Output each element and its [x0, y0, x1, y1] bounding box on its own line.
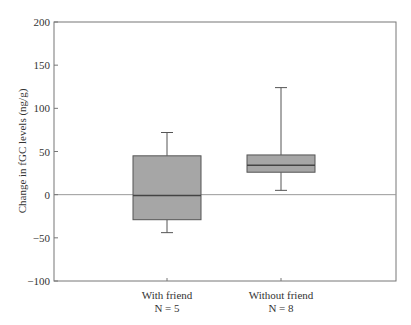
iqr-box: [247, 155, 315, 172]
category-label: With friend: [142, 289, 193, 301]
y-axis-title: Change in fGC levels (ng/g): [16, 88, 29, 213]
y-tick-label: 200: [34, 16, 51, 28]
box-1: [133, 133, 201, 233]
y-tick-label: 150: [34, 59, 51, 71]
y-tick-label: 0: [45, 189, 51, 201]
box-plot: 200150100500−50−100 With friendN = 5With…: [0, 0, 411, 325]
y-tick-label: −100: [27, 275, 50, 287]
y-tick-label: 50: [39, 146, 51, 158]
box-2: [247, 88, 315, 191]
plot-frame: [54, 22, 396, 281]
y-tick-label: 100: [34, 102, 51, 114]
iqr-box: [133, 156, 201, 220]
sample-size-label: N = 5: [154, 302, 180, 314]
category-label: Without friend: [249, 289, 314, 301]
y-tick-label: −50: [33, 232, 51, 244]
sample-size-label: N = 8: [268, 302, 294, 314]
